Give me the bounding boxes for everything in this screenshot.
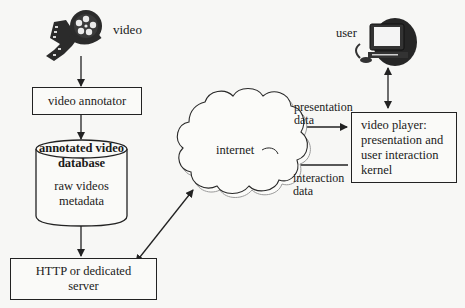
user-label: user: [336, 26, 357, 40]
database-title-line1: annotated video: [32, 141, 131, 156]
video-player-line1: video player:: [361, 118, 456, 133]
server-box: HTTP or dedicated server: [10, 258, 157, 300]
video-annotator-label: video annotator: [48, 94, 126, 109]
database-content-line1: raw videos: [36, 179, 127, 194]
video-player-line4: kernel: [361, 163, 456, 178]
video-player-line3: user interaction: [361, 148, 456, 163]
interaction-data-line2: data: [293, 185, 344, 198]
film-reel-icon: [46, 10, 102, 61]
server-label-line1: HTTP or dedicated: [36, 264, 131, 279]
video-annotator-box: video annotator: [32, 87, 142, 115]
internet-label: internet: [216, 143, 254, 157]
video-player-box: video player: presentation and user inte…: [351, 112, 457, 183]
interaction-data-label: interaction data: [293, 172, 344, 198]
database-title-line2: database: [36, 156, 127, 171]
presentation-data-line2: data: [294, 114, 353, 127]
server-label-line2: server: [68, 279, 99, 294]
video-source-label: video: [113, 23, 142, 37]
database-node: annotated video database raw videos meta…: [36, 141, 127, 209]
arrow-server-internet-bidirectional: [136, 190, 193, 262]
presentation-data-label: presentation data: [294, 101, 353, 127]
video-player-line2: presentation and: [361, 133, 456, 148]
database-content-line2: metadata: [36, 194, 127, 209]
computer-user-icon: [356, 18, 417, 66]
